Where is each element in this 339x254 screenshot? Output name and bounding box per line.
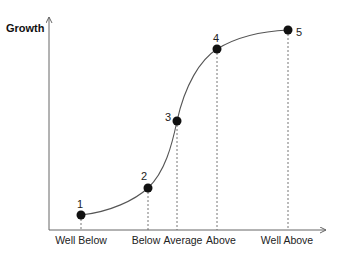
data-points (77, 26, 293, 220)
point-4 (213, 45, 222, 54)
x-tick-average: Average (164, 234, 203, 246)
point-label-1: 1 (77, 198, 83, 210)
x-tick-well-above: Well Above (261, 234, 313, 246)
y-axis-label: Growth (6, 22, 45, 34)
x-tick-below: Below (132, 234, 161, 246)
drop-lines (81, 30, 288, 230)
point-label-4: 4 (213, 32, 219, 44)
point-label-5: 5 (296, 26, 302, 38)
x-tick-well-below: Well Below (55, 234, 107, 246)
point-1 (77, 211, 86, 220)
growth-chart: Growth 1 2 3 4 5 Well Below Below Averag… (0, 0, 339, 254)
point-5 (284, 26, 293, 35)
point-2 (144, 184, 153, 193)
point-3 (173, 117, 182, 126)
x-tick-above: Above (206, 234, 236, 246)
point-label-3: 3 (165, 111, 171, 123)
point-label-2: 2 (141, 170, 147, 182)
growth-curve (81, 30, 288, 215)
